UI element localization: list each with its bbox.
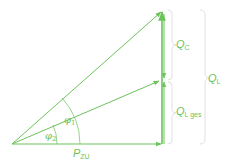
phi2-label-sub: 2 bbox=[52, 135, 56, 143]
vector-diagram bbox=[0, 0, 237, 166]
apparent-power-uncompensated-vector bbox=[12, 12, 161, 144]
phi2-label-main: φ bbox=[45, 130, 52, 141]
pzu-label: PZU bbox=[73, 148, 90, 160]
phi1-label-main: φ bbox=[64, 114, 71, 125]
ql-ges-label: QL ges bbox=[176, 106, 201, 118]
qc-brace bbox=[168, 10, 176, 80]
ql-label-main: Q bbox=[208, 72, 217, 84]
qc-label-sub: C bbox=[185, 44, 190, 51]
phi2-label: φ2 bbox=[45, 131, 56, 143]
qc-label-main: Q bbox=[176, 38, 185, 50]
power-triangle-diagram: QC QL ges QL PZU φ1 φ2 bbox=[0, 0, 237, 166]
apparent-power-compensated-vector bbox=[12, 81, 159, 144]
ql-ges-label-main: Q bbox=[176, 105, 185, 117]
phi1-label: φ1 bbox=[64, 115, 75, 127]
ql-label: QL bbox=[208, 73, 220, 85]
ql-ges-label-sub: L ges bbox=[185, 111, 202, 118]
qc-label: QC bbox=[176, 39, 190, 51]
ql-ges-brace bbox=[168, 82, 176, 144]
pzu-label-sub: ZU bbox=[80, 153, 89, 160]
phi1-label-sub: 1 bbox=[71, 119, 75, 127]
ql-label-sub: L bbox=[217, 78, 221, 85]
